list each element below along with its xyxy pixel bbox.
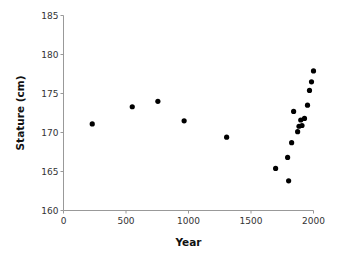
y-tick-label: 170: [41, 128, 58, 138]
data-point: [155, 99, 160, 104]
data-point: [273, 166, 278, 171]
data-point: [182, 118, 187, 123]
data-point: [307, 88, 312, 93]
y-axis-title: Stature (cm): [14, 76, 26, 151]
data-point: [286, 178, 291, 183]
y-tick-label: 165: [41, 167, 58, 177]
data-point: [90, 121, 95, 126]
scatter-chart: 160165170175180185 0500100015002000 Year…: [0, 0, 344, 264]
x-tick-label: 0: [61, 216, 67, 226]
x-tick-label: 1000: [177, 216, 200, 226]
data-point: [295, 129, 300, 134]
x-tick-label: 500: [117, 216, 134, 226]
data-point: [130, 104, 135, 109]
data-point: [311, 68, 316, 73]
data-point: [309, 79, 314, 84]
data-point: [302, 116, 307, 121]
y-tick-label: 185: [41, 11, 58, 21]
data-point: [299, 123, 304, 128]
x-tick-label: 1500: [240, 216, 263, 226]
data-point: [305, 103, 310, 108]
data-point: [291, 109, 296, 114]
y-tick-label: 160: [41, 206, 58, 216]
x-axis-title: Year: [174, 236, 202, 248]
data-point: [285, 155, 290, 160]
y-axis: 160165170175180185: [41, 11, 63, 216]
x-axis: 0500100015002000: [61, 211, 326, 226]
data-points: [90, 68, 316, 183]
y-tick-label: 180: [41, 50, 58, 60]
y-tick-label: 175: [41, 89, 58, 99]
data-point: [224, 135, 229, 140]
x-tick-label: 2000: [302, 216, 325, 226]
data-point: [289, 140, 294, 145]
